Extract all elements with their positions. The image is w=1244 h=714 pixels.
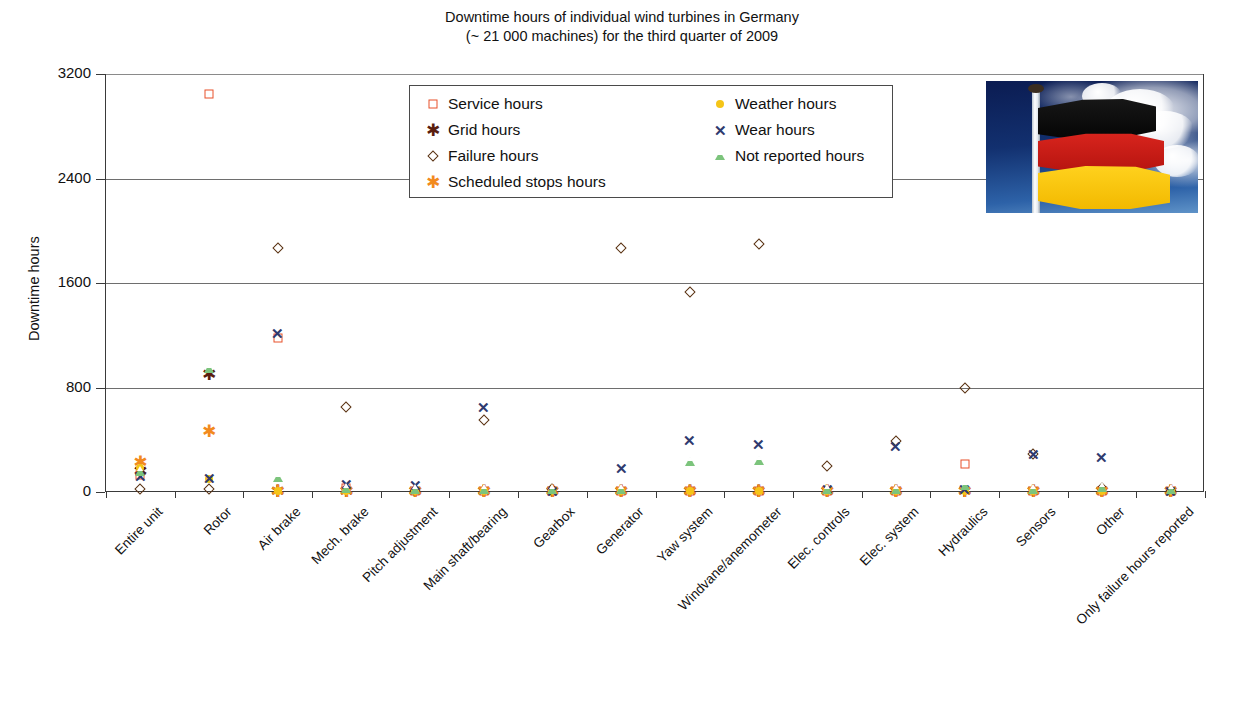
chart-title-line-1: Downtime hours of individual wind turbin… [445,9,799,25]
legend-marker: ✕ [709,119,731,141]
triangle-inner [1030,484,1036,489]
legend-item[interactable]: Not reported hours [709,144,882,168]
legend-label: Wear hours [735,121,815,139]
x-marker-icon: ✕ [203,470,216,485]
x-axis-tick-mark [793,491,794,498]
x-axis-tick-mark [381,491,382,498]
y-axis-tick-label: 3200 [58,64,91,81]
legend-marker [422,93,444,115]
circle-filled-marker-icon [755,487,763,495]
german-flag-photo [986,81,1198,213]
x-marker-icon: ✕ [271,325,284,340]
chart-legend: Service hoursWeather hours✱Grid hours✕We… [409,85,893,198]
flag-band-gold [1038,165,1170,209]
triangle-inner [137,466,143,471]
legend-marker [709,93,731,115]
legend-label: Not reported hours [735,147,864,165]
asterisk-marker-icon: ✱ [202,422,216,439]
triangle-inner [1099,482,1105,487]
triangle-open-marker-icon [1166,485,1176,494]
y-axis-tick-label: 0 [83,482,91,499]
y-axis-tick-label: 1600 [58,273,91,290]
x-axis-tick-mark [1136,491,1137,498]
legend-marker: ✱ [422,119,444,141]
circle-filled-marker-icon [274,487,282,495]
square-open-marker-icon [429,100,438,109]
gridline-800 [106,388,1203,389]
legend-item[interactable]: ✱Scheduled stops hours [422,170,709,194]
diamond-open-marker-icon [135,484,146,495]
triangle-open-marker-icon [479,485,489,494]
x-axis-tick-mark [587,491,588,498]
triangle-open-marker-icon [822,485,832,494]
x-marker-icon: ✕ [615,460,628,475]
legend-label: Weather hours [735,95,836,113]
diamond-open-marker-icon [272,242,283,253]
legend-label: Failure hours [448,147,538,165]
flagpole-cap [1028,84,1044,93]
circle-filled-marker-icon [716,100,724,108]
triangle-open-marker-icon [715,151,725,160]
triangle-open-marker-icon [891,485,901,494]
x-axis-tick-mark [243,491,244,498]
triangle-inner [618,484,624,489]
diamond-open-marker-icon [427,150,438,161]
legend-item[interactable]: Weather hours [709,92,882,116]
x-axis-tick-mark [518,491,519,498]
x-marker-icon: ✕ [477,400,490,415]
triangle-open-marker-icon [273,473,283,482]
triangle-inner [343,483,349,488]
legend-marker [422,145,444,167]
triangle-inner [824,484,830,489]
chart-figure: Downtime hours of individual wind turbin… [0,0,1244,714]
triangle-inner [756,455,762,460]
y-axis-tick-label: 2400 [58,169,91,186]
triangle-open-marker-icon [754,456,764,465]
triangle-open-marker-icon [204,364,214,373]
x-marker-icon: ✕ [752,437,765,452]
legend-item[interactable]: ✱Grid hours [422,118,709,142]
y-axis-tick-label: 800 [66,378,91,395]
y-axis-tick-mark [96,283,105,284]
x-axis-tick-mark [1068,491,1069,498]
legend-label: Grid hours [448,121,520,139]
triangle-open-marker-icon [685,457,695,466]
x-marker-icon: ✕ [889,439,902,454]
y-axis-tick-mark [96,388,105,389]
triangle-inner [687,456,693,461]
x-axis-tick-mark [175,491,176,498]
legend-item[interactable]: Failure hours [422,144,709,168]
triangle-inner [275,472,281,477]
legend-marker: ✱ [422,171,444,193]
legend-items: Service hoursWeather hours✱Grid hours✕We… [422,92,882,194]
square-open-marker-icon [205,89,214,98]
triangle-inner [481,484,487,489]
diamond-open-marker-icon [753,238,764,249]
triangle-open-marker-icon [1097,483,1107,492]
x-marker-icon: ✕ [1027,447,1040,462]
diamond-open-marker-icon [684,286,695,297]
diamond-open-marker-icon [615,242,626,253]
y-axis-tick-mark [96,492,105,493]
diamond-open-marker-icon [822,460,833,471]
triangle-inner [206,363,212,368]
diamond-open-marker-icon [341,401,352,412]
legend-item[interactable]: ✕Wear hours [709,118,882,142]
asterisk-marker-icon: ✱ [426,174,440,191]
y-axis-label: Downtime hours [26,236,42,341]
triangle-open-marker-icon [616,485,626,494]
x-axis-tick-mark [312,491,313,498]
triangle-open-marker-icon [1028,485,1038,494]
x-marker-icon: ✕ [1095,450,1108,465]
x-axis-tick-mark [656,491,657,498]
x-axis-tick-mark [106,491,107,498]
gridline-3200 [106,74,1203,75]
legend-item[interactable]: Service hours [422,92,709,116]
triangle-inner [1168,484,1174,489]
triangle-open-marker-icon [547,485,557,494]
x-marker-icon: ✕ [683,432,696,447]
diamond-open-marker-icon [959,382,970,393]
x-axis-tick-mark [930,491,931,498]
x-axis-tick-mark [724,491,725,498]
triangle-open-marker-icon [341,484,351,493]
